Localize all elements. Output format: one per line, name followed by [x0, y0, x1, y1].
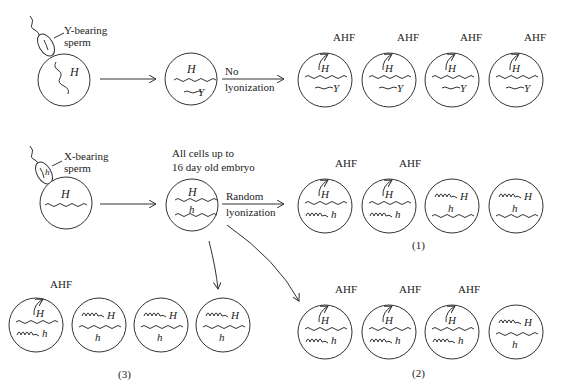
lyonization-diagram: Y-bearing sperm H H Y No lyonization AHF…	[0, 0, 566, 387]
gene-label: H	[459, 190, 469, 202]
gene-label: h	[512, 202, 518, 214]
ahf-label: AHF	[335, 157, 357, 169]
gene-label: H	[384, 314, 394, 326]
arrow-to-outcome-2	[227, 225, 299, 301]
outcome-2: AHF H h AHF H h AHF H h H	[298, 283, 543, 380]
gene-label: H	[168, 309, 178, 321]
row1-fertilization: Y-bearing sperm H H Y No lyonization AHF…	[30, 16, 546, 107]
row1-cells: AHF H Y AHF H Y AHF H	[298, 31, 546, 107]
sperm-gene: h	[45, 167, 50, 177]
gene-label: H	[447, 314, 457, 326]
gene-H: H	[186, 62, 197, 76]
gene-label: h	[331, 334, 337, 346]
gene-label: H	[523, 190, 533, 202]
gene-H: H	[187, 185, 198, 199]
gene-label: h	[458, 334, 464, 346]
ahf-label: AHF	[399, 283, 421, 295]
gene-label: H	[447, 62, 457, 74]
gene-label: H	[523, 316, 533, 328]
gene-label: H	[320, 314, 330, 326]
gene-label: H	[511, 62, 521, 74]
gene-label: H	[320, 62, 330, 74]
gene-label: H	[106, 309, 116, 321]
gene-label: H	[230, 309, 240, 321]
gene-label: h	[95, 331, 101, 343]
gene-label: H	[35, 307, 45, 319]
sperm-label: Y-bearing	[64, 24, 108, 36]
gene-label: h	[448, 202, 454, 214]
arrow-label-2: lyonization	[226, 206, 276, 218]
gene-label: h	[42, 327, 48, 339]
gene-label: h	[219, 331, 225, 343]
arrow-label-2: lyonization	[225, 81, 275, 93]
gene-label: h	[512, 338, 518, 350]
ahf-label: AHF	[460, 31, 482, 43]
egg-gene: H	[60, 187, 71, 201]
outcome-3: AHF H h H h H h H h (3)	[9, 278, 250, 381]
sperm-label-2: sperm	[64, 36, 91, 48]
zygote-caption: All cells up to	[172, 147, 235, 159]
sperm-label: X-bearing	[64, 150, 109, 162]
sperm-label-2: sperm	[64, 162, 91, 174]
ahf-label: AHF	[50, 278, 72, 290]
gene-label: h	[395, 334, 401, 346]
outcome-label: (2)	[412, 367, 425, 380]
outcome-label: (1)	[412, 239, 425, 252]
gene-label: h	[331, 208, 337, 220]
ahf-label: AHF	[524, 31, 546, 43]
ahf-label: AHF	[458, 283, 480, 295]
ahf-label: AHF	[399, 157, 421, 169]
egg-cell	[38, 54, 90, 106]
egg-gene: H	[69, 65, 80, 79]
outcome-1: AHF H h AHF H h H h H h	[298, 157, 543, 252]
gene-label: h	[157, 331, 163, 343]
arrow-label: No	[225, 65, 239, 77]
arrow-to-outcome-3	[209, 241, 218, 289]
y-sperm-icon	[30, 16, 64, 59]
ahf-label: AHF	[335, 283, 357, 295]
outcome-label: (3)	[118, 368, 131, 381]
gene-label: h	[395, 208, 401, 220]
ahf-label: AHF	[333, 31, 355, 43]
arrow-label: Random	[226, 190, 264, 202]
gene-label: H	[320, 188, 330, 200]
gene-label: H	[384, 188, 394, 200]
ahf-label: AHF	[397, 31, 419, 43]
zygote-caption-2: 16 day old embryo	[172, 161, 255, 173]
gene-label: H	[384, 62, 394, 74]
